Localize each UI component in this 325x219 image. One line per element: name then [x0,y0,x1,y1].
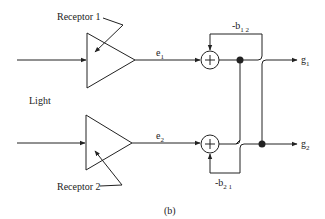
e1-label: e1 [156,47,164,61]
g2-label: g2 [301,138,310,152]
figure-caption: (b) [164,205,176,217]
receptor-2-triangle [86,115,132,170]
feedback-b21-label: -b2 1 [215,177,233,191]
feedback-b12-label: -b1 2 [232,20,250,34]
receptor-1-leader [95,18,123,52]
feedback-b12-path [210,34,262,56]
receptor-1-triangle [87,33,135,88]
g1-down-to-sum2 [236,60,240,144]
receptor-2-label: Receptor 2 [57,181,101,192]
junction-dot-2 [259,141,266,148]
receptor-1-label: Receptor 1 [57,11,101,22]
light-label: Light [29,95,51,106]
crossover-hump-1 [258,56,262,60]
g1-label: g1 [301,54,310,68]
e2-label: e2 [156,130,164,144]
channel-1 [17,18,297,144]
junction-dot-1 [237,57,244,64]
channel-2 [17,64,297,186]
lateral-inhibition-diagram: Receptor 1 Receptor 2 Light e1 e2 -b1 2 … [0,0,325,219]
